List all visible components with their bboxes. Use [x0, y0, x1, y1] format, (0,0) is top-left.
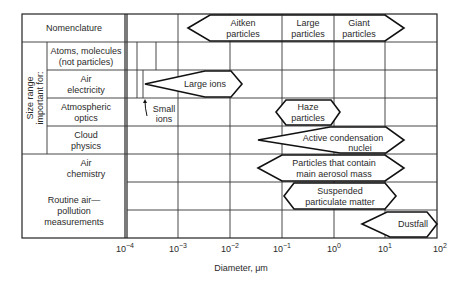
svg-text:Atoms, molecules: Atoms, molecules — [50, 46, 122, 56]
particle-size-diagram: Nomenclature Size range important for: A… — [0, 0, 461, 284]
svg-text:particulate matter: particulate matter — [305, 197, 375, 207]
nomenclature-label: Nomenclature — [46, 23, 102, 33]
svg-text:Air: Air — [81, 74, 92, 84]
tick-1e1: 101 — [378, 242, 392, 254]
large-ions-shape: Large ions — [145, 71, 242, 97]
tick-1e-1: 10−1 — [273, 242, 291, 254]
svg-text:particles: particles — [342, 29, 376, 39]
svg-text:Haze: Haze — [297, 102, 318, 112]
row-label-optics: Atmospheric optics — [61, 102, 112, 123]
suspended-particulate-shape: Suspended particulate matter — [284, 183, 396, 209]
svg-text:Size range: Size range — [25, 76, 35, 119]
haze-particles-shape: Haze particles — [276, 100, 340, 125]
svg-text:Atmospheric: Atmospheric — [61, 102, 112, 112]
x-axis: 10−4 10−3 10−2 10−1 100 101 102 Diameter… — [116, 242, 447, 273]
svg-text:Air: Air — [81, 158, 92, 168]
x-axis-label: Diameter, μm — [214, 263, 268, 273]
svg-text:Large ions: Large ions — [184, 79, 227, 89]
svg-text:physics: physics — [71, 141, 102, 151]
giant-particles-label: Giant — [348, 18, 370, 28]
aitken-label: Aitken — [230, 18, 255, 28]
svg-text:Dustfall: Dustfall — [398, 219, 428, 229]
nomenclature-range-shape: Aitken particles Large particles Giant p… — [188, 15, 404, 41]
tick-1e2: 102 — [433, 242, 447, 254]
row-label-air-electricity: Air electricity — [67, 74, 105, 95]
svg-text:Cloud: Cloud — [74, 130, 98, 140]
svg-text:Small: Small — [153, 104, 176, 114]
condensation-nuclei-shape: Active condensation nuclei — [258, 127, 404, 153]
small-ions-annotation: Small ions — [143, 99, 175, 124]
row-label-routine-pollution: Routine air— pollution measurements — [44, 195, 104, 227]
svg-text:main aerosol mass: main aerosol mass — [296, 169, 372, 179]
svg-text:particles: particles — [291, 113, 325, 123]
svg-text:Routine air—: Routine air— — [48, 195, 101, 205]
svg-text:particles: particles — [291, 29, 325, 39]
svg-text:Particles that contain: Particles that contain — [292, 158, 376, 168]
tick-1e-2: 10−2 — [221, 242, 239, 254]
row-label-air-chemistry: Air chemistry — [67, 158, 106, 179]
svg-text:electricity: electricity — [67, 85, 105, 95]
svg-text:pollution: pollution — [57, 206, 91, 216]
row-label-cloud-physics: Cloud physics — [71, 130, 102, 151]
svg-text:optics: optics — [74, 113, 98, 123]
svg-text:(not particles): (not particles) — [59, 57, 114, 67]
size-range-label: Size range important for: — [25, 71, 45, 124]
large-particles-label: Large — [296, 18, 319, 28]
svg-text:measurements: measurements — [44, 217, 104, 227]
svg-text:Active condensation: Active condensation — [303, 133, 384, 143]
svg-text:Suspended: Suspended — [317, 186, 363, 196]
tick-1e-4: 10−4 — [116, 242, 134, 254]
svg-text:ions: ions — [156, 114, 173, 124]
aerosol-mass-shape: Particles that contain main aerosol mass — [258, 155, 404, 181]
dustfall-shape: Dustfall — [362, 212, 437, 237]
svg-text:chemistry: chemistry — [67, 169, 106, 179]
svg-text:important for:: important for: — [35, 71, 45, 124]
tick-1e-3: 10−3 — [169, 242, 187, 254]
svg-text:particles: particles — [226, 29, 260, 39]
arrow-up-icon — [143, 99, 147, 103]
tick-1e0: 100 — [327, 242, 341, 254]
svg-text:nuclei: nuclei — [348, 143, 372, 153]
row-label-atoms: Atoms, molecules (not particles) — [50, 46, 122, 67]
